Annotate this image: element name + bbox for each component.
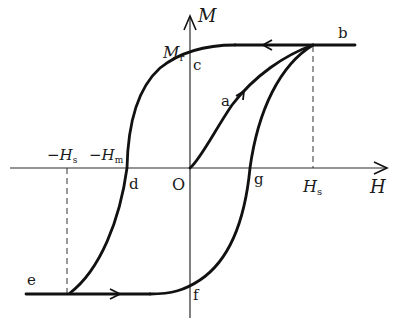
saturation-field-label: Hs [302,177,322,197]
remanence-label: Mr [162,43,184,63]
m-axis-label: M [197,5,217,26]
point-d-label: d [129,175,139,193]
ascending-branch [150,45,313,294]
neg-saturation-field-label: −Hs [47,146,78,165]
coercive-field-label: −Hm [89,146,124,165]
descending-branch [70,45,235,293]
initial-magnetization-curve [190,45,313,168]
point-a-label: a [221,92,230,110]
h-axis-label: H [369,176,386,197]
point-g-label: g [254,170,264,188]
point-e-label: e [27,271,36,289]
point-c-label: c [193,56,201,74]
point-f-label: f [193,286,200,304]
origin-label: O [172,175,185,194]
point-b-label: b [338,24,348,42]
hysteresis-diagram: M H O Mr Hs −Hs −Hm a b c d e f g [0,0,395,333]
